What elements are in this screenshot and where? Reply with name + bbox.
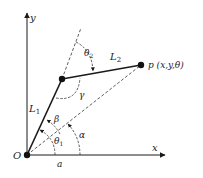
link1-label: L1: [28, 103, 40, 116]
gamma-label: γ: [79, 90, 85, 100]
origin-label: O: [13, 150, 21, 161]
x-axis-label: x: [152, 142, 158, 153]
theta1-label: θ1: [54, 136, 63, 147]
link1-extension-dashed: [62, 28, 81, 79]
end-effector-joint: [138, 62, 144, 68]
origin-to-p-dashed: [27, 65, 141, 155]
link2-label: L2: [109, 51, 121, 64]
theta1-arc: [40, 130, 55, 155]
end-effector-label: p (x,y,θ): [148, 60, 184, 70]
elbow-joint: [59, 76, 65, 82]
y-axis-label: y: [29, 12, 36, 23]
beta-label: β: [53, 114, 59, 124]
alpha-label: α: [79, 130, 85, 140]
link2: [62, 65, 141, 79]
theta2-label: θ2: [84, 48, 93, 59]
origin-joint: [24, 152, 30, 158]
a-label: a: [57, 159, 62, 169]
two-link-arm-diagram: y x O a L1 L2 p (x,y,θ) θ2 γ β θ1 α: [0, 0, 203, 178]
